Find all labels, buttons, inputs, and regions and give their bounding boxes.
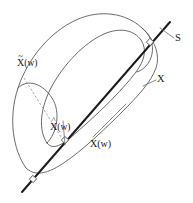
diagram-canvas	[0, 0, 193, 203]
label-x-of-w: X(w)	[90, 139, 111, 149]
tilde-accent-icon: ~	[18, 52, 23, 61]
label-x-tilde: ~ X (w)	[17, 58, 37, 69]
manifold-outer-boundary	[13, 14, 158, 173]
accent-group-hat: ^ X	[50, 122, 57, 132]
label-line-s: S	[175, 33, 181, 44]
figure-container: ~ X (w) ^ X (w) X(w) X S	[0, 0, 193, 203]
leader-line-s	[160, 28, 174, 38]
label-x-hat: ^ X (w)	[50, 122, 70, 133]
label-x-tilde-suffix: (w)	[24, 58, 37, 68]
line-s-through-manifold	[22, 22, 170, 192]
accent-group-tilde: ~ X	[17, 58, 24, 68]
hat-accent-icon: ^	[52, 117, 56, 125]
manifold-left-cap	[18, 83, 57, 143]
label-x-hat-suffix: (w)	[57, 122, 70, 132]
leader-x-of-w	[93, 104, 126, 137]
label-manifold-x: X	[157, 74, 165, 85]
